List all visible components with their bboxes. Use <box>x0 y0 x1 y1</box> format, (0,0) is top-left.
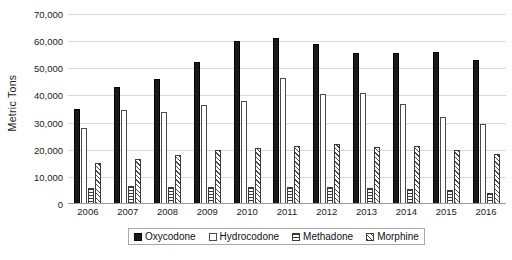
bar-hydrocodone-2007 <box>121 110 127 204</box>
legend-label-oxycodone: Oxycodone <box>145 231 196 242</box>
bar-group-2013 <box>347 14 387 204</box>
bar-group-2015 <box>426 14 466 204</box>
bar-group-2008 <box>148 14 188 204</box>
bar-group-2009 <box>187 14 227 204</box>
y-axis-tick-labels: 010,00020,00030,00040,00050,00060,00070,… <box>20 0 67 210</box>
legend-item-morphine[interactable]: Morphine <box>366 231 419 242</box>
y-axis-tick: 10,000 <box>34 171 63 182</box>
bar-hydrocodone-2015 <box>440 117 446 204</box>
legend-item-oxycodone[interactable]: Oxycodone <box>134 231 196 242</box>
bar-hydrocodone-2008 <box>161 112 167 204</box>
bar-group-2014 <box>387 14 427 204</box>
x-axis-tick-2009: 2009 <box>187 206 227 217</box>
bar-group-2007 <box>108 14 148 204</box>
x-axis-tick-labels: 2006200720082009201020112012201320142015… <box>68 206 506 217</box>
bar-oxycodone-2013 <box>353 53 359 204</box>
bar-oxycodone-2011 <box>273 38 279 204</box>
bar-morphine-2007 <box>135 159 141 204</box>
bar-methadone-2008 <box>168 187 174 204</box>
legend-swatch-oxycodone-icon <box>134 233 142 241</box>
legend-swatch-morphine-icon <box>366 233 374 241</box>
x-axis-tick-2013: 2013 <box>347 206 387 217</box>
bar-methadone-2006 <box>88 188 94 204</box>
bar-hydrocodone-2014 <box>400 104 406 204</box>
bar-morphine-2008 <box>175 155 181 204</box>
x-axis-tick-2010: 2010 <box>227 206 267 217</box>
bar-hydrocodone-2006 <box>81 128 87 204</box>
bar-methadone-2011 <box>287 187 293 204</box>
bar-hydrocodone-2010 <box>241 101 247 204</box>
bar-methadone-2010 <box>248 187 254 204</box>
bar-oxycodone-2009 <box>194 62 200 205</box>
x-axis-tick-2012: 2012 <box>307 206 347 217</box>
bar-morphine-2010 <box>255 148 261 204</box>
bar-morphine-2013 <box>374 147 380 204</box>
legend-item-methadone[interactable]: Methadone <box>292 231 353 242</box>
bar-oxycodone-2006 <box>74 109 80 204</box>
y-axis-title: Metric Tons <box>2 0 22 205</box>
bar-group-2011 <box>267 14 307 204</box>
x-axis-tick-2015: 2015 <box>426 206 466 217</box>
x-axis-tick-2016: 2016 <box>466 206 506 217</box>
x-axis-tick-2011: 2011 <box>267 206 307 217</box>
bar-hydrocodone-2009 <box>201 105 207 204</box>
bar-group-2006 <box>68 14 108 204</box>
bar-group-2010 <box>227 14 267 204</box>
bar-oxycodone-2010 <box>234 41 240 204</box>
legend-label-methadone: Methadone <box>303 231 353 242</box>
y-axis-tick: 40,000 <box>34 90 63 101</box>
bar-groups <box>68 14 506 204</box>
bar-oxycodone-2016 <box>473 60 479 204</box>
y-axis-tick: 50,000 <box>34 63 63 74</box>
x-axis-tick-2007: 2007 <box>108 206 148 217</box>
bar-chart: Metric Tons 010,00020,00030,00040,00050,… <box>0 0 512 260</box>
chart-legend: OxycodoneHydrocodoneMethadoneMorphine <box>128 228 425 245</box>
bar-oxycodone-2015 <box>433 52 439 204</box>
bar-morphine-2006 <box>95 163 101 204</box>
plot-area <box>68 14 506 204</box>
bar-oxycodone-2014 <box>393 53 399 204</box>
y-axis-tick: 0 <box>58 199 63 210</box>
x-axis-tick-2014: 2014 <box>387 206 427 217</box>
bar-oxycodone-2012 <box>313 44 319 204</box>
bar-hydrocodone-2016 <box>480 124 486 204</box>
bar-hydrocodone-2013 <box>360 93 366 204</box>
y-axis-title-label: Metric Tons <box>6 74 18 131</box>
x-axis-tick-2006: 2006 <box>68 206 108 217</box>
bar-methadone-2009 <box>208 187 214 204</box>
bar-morphine-2012 <box>334 144 340 204</box>
x-axis-tick-2008: 2008 <box>148 206 188 217</box>
bar-group-2012 <box>307 14 347 204</box>
y-axis-tick: 30,000 <box>34 117 63 128</box>
legend-item-hydrocodone[interactable]: Hydrocodone <box>209 231 279 242</box>
bar-morphine-2016 <box>494 154 500 204</box>
bar-methadone-2014 <box>407 189 413 204</box>
y-axis-tick: 20,000 <box>34 144 63 155</box>
bar-hydrocodone-2011 <box>280 78 286 204</box>
bar-methadone-2012 <box>327 187 333 204</box>
bar-methadone-2015 <box>447 190 453 204</box>
bar-morphine-2015 <box>454 150 460 204</box>
bar-morphine-2009 <box>215 150 221 204</box>
legend-label-hydrocodone: Hydrocodone <box>220 231 279 242</box>
bar-morphine-2014 <box>414 146 420 204</box>
bar-oxycodone-2007 <box>114 87 120 204</box>
x-axis-line <box>68 203 506 204</box>
y-axis-tick: 70,000 <box>34 9 63 20</box>
bar-methadone-2007 <box>128 186 134 204</box>
bar-oxycodone-2008 <box>154 79 160 204</box>
legend-swatch-methadone-icon <box>292 233 300 241</box>
bar-hydrocodone-2012 <box>320 94 326 204</box>
bar-group-2016 <box>466 14 506 204</box>
bar-morphine-2011 <box>294 146 300 204</box>
y-axis-tick: 60,000 <box>34 36 63 47</box>
legend-label-morphine: Morphine <box>377 231 419 242</box>
legend-swatch-hydrocodone-icon <box>209 233 217 241</box>
bar-methadone-2013 <box>367 188 373 204</box>
